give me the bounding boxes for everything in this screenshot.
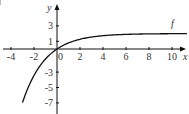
function-graph: -4-20246810 x 31-3-5-7 y f xyxy=(0,0,189,114)
y-axis-label: y xyxy=(46,2,52,13)
x-tick-label: -2 xyxy=(30,51,38,62)
x-tick-label: 8 xyxy=(147,51,152,62)
curve-label-f: f xyxy=(171,18,175,29)
x-tick-label: -4 xyxy=(7,51,15,62)
x-tick-label: 4 xyxy=(101,51,106,62)
x-tick-label: 0 xyxy=(58,51,63,62)
y-tick-label: 3 xyxy=(48,20,53,31)
y-tick-label: -7 xyxy=(45,97,53,108)
x-axis-label: x xyxy=(182,51,188,62)
y-axis-arrow-icon xyxy=(55,4,60,10)
y-tick-label: -5 xyxy=(45,82,53,93)
x-tick-label: 10 xyxy=(167,51,177,62)
x-tick-label: 2 xyxy=(78,51,83,62)
x-tick-label: 6 xyxy=(124,51,129,62)
y-tick-label: -3 xyxy=(45,67,53,78)
y-tick-label: 1 xyxy=(48,36,53,47)
x-axis: -4-20246810 x xyxy=(3,47,188,63)
